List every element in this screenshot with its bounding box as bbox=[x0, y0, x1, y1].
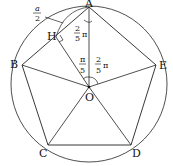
label-C: C bbox=[39, 147, 47, 160]
center-point bbox=[88, 86, 91, 89]
label-E: E bbox=[159, 59, 167, 72]
angle-arc-O-right bbox=[89, 77, 98, 84]
angle-AOH-num: π bbox=[80, 55, 85, 64]
angle-A-num: 2 bbox=[75, 24, 80, 33]
half-side-num: a bbox=[35, 4, 40, 13]
half-side-den: 2 bbox=[35, 14, 40, 23]
right-angle-mark bbox=[59, 35, 63, 42]
radius-OB bbox=[22, 65, 89, 87]
label-B: B bbox=[10, 58, 18, 71]
label-D: D bbox=[132, 147, 141, 160]
angle-AOE-pi: π bbox=[103, 61, 108, 70]
angle-AOH-den: 5 bbox=[80, 66, 85, 75]
radius-OD bbox=[89, 87, 131, 145]
angle-AOE-num: 2 bbox=[96, 55, 101, 64]
angle-A-den: 5 bbox=[75, 34, 80, 43]
label-A: A bbox=[84, 0, 94, 10]
half-side-leader bbox=[45, 17, 63, 23]
angle-AOE-den: 5 bbox=[96, 66, 101, 75]
angle-A-pi: π bbox=[82, 30, 87, 39]
radius-OC bbox=[48, 87, 89, 145]
label-H: H bbox=[47, 30, 57, 43]
label-O: O bbox=[85, 91, 94, 104]
pentagon-diagram: A B C D E O H a 2 2 5 π π 5 2 5 π bbox=[0, 0, 173, 166]
angle-arc-A bbox=[84, 20, 92, 22]
